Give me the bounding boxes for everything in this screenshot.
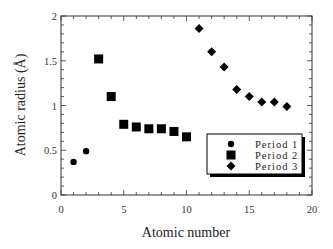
data-point xyxy=(182,132,191,141)
x-tick-label: 10 xyxy=(181,204,192,215)
x-tick-label: 15 xyxy=(244,204,255,215)
legend: Period 1Period 2Period 3 xyxy=(207,134,305,177)
x-axis-title: Atomic number xyxy=(142,225,231,240)
x-tick-labels: 05101520 xyxy=(58,204,317,215)
legend-label: Period 2 xyxy=(255,150,298,161)
y-tick-label: 2 xyxy=(52,11,57,22)
y-axis-title: Atomic radius (Å) xyxy=(13,53,29,156)
data-point xyxy=(107,92,116,101)
data-point xyxy=(282,102,291,111)
y-tick-label: 0.5 xyxy=(44,145,57,156)
data-point xyxy=(132,122,141,131)
data-point xyxy=(195,24,204,33)
data-point xyxy=(270,97,279,106)
data-point xyxy=(245,92,254,101)
data-point xyxy=(83,148,89,154)
data-point xyxy=(257,97,266,106)
data-point xyxy=(119,120,128,129)
x-tick-label: 0 xyxy=(58,204,63,215)
data-point xyxy=(144,124,153,133)
legend-marker-circle-icon xyxy=(228,141,234,147)
y-tick-labels: 00.511.52 xyxy=(44,11,57,201)
data-point xyxy=(94,54,103,63)
data-point xyxy=(70,159,76,165)
legend-marker-square-icon xyxy=(227,151,236,160)
data-point xyxy=(169,127,178,136)
y-tick-label: 0 xyxy=(52,190,57,201)
data-point xyxy=(220,63,229,72)
data-point xyxy=(207,47,216,56)
x-tick-label: 20 xyxy=(307,204,318,215)
x-tick-label: 5 xyxy=(121,204,126,215)
data-point xyxy=(232,85,241,94)
legend-label: Period 3 xyxy=(255,161,298,172)
y-tick-label: 1.5 xyxy=(44,56,57,67)
scatter-chart: 05101520 00.511.52 Atomic number Atomic … xyxy=(0,0,333,249)
data-point xyxy=(157,124,166,133)
y-tick-label: 1 xyxy=(52,101,57,112)
legend-label: Period 1 xyxy=(255,139,298,150)
